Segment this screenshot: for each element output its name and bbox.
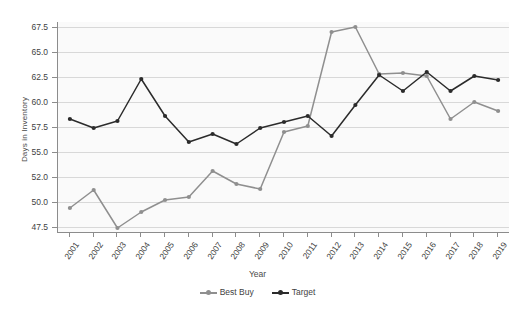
data-point [282,130,286,134]
x-axis-tick [140,232,141,237]
x-axis-tick [212,232,213,237]
y-axis-tick [52,77,57,78]
y-axis-tick [52,202,57,203]
x-axis-tick [235,232,236,237]
y-axis-tick [52,127,57,128]
data-point [401,89,405,93]
x-axis-tick-label: 2014 [365,240,390,270]
data-point [187,195,191,199]
y-axis-tick [52,177,57,178]
data-point [234,142,238,146]
chart-legend: Best BuyTarget [0,288,515,297]
y-axis-tick-label: 65.0 [8,47,48,57]
y-axis-tick-label: 60.0 [8,97,48,107]
data-point [211,132,215,136]
data-point [92,126,96,130]
x-axis-title: Year [0,269,515,279]
x-axis-tick [188,232,189,237]
x-axis-tick-label: 2015 [389,240,414,270]
data-point [329,134,333,138]
y-axis-tick-label: 55.0 [8,147,48,157]
x-axis-tick-label: 2005 [151,240,176,270]
data-point [448,89,452,93]
data-point [401,71,405,75]
data-point [425,70,429,74]
legend-item-target[interactable]: Target [272,288,316,297]
data-point [163,114,167,118]
x-axis-tick-label: 2011 [294,240,319,270]
x-axis-tick-label: 2017 [436,240,461,270]
x-axis-tick [402,232,403,237]
y-axis-tick [52,152,57,153]
x-axis-tick [473,232,474,237]
data-point [115,226,119,230]
y-axis-tick-label: 67.5 [8,22,48,32]
data-point [68,117,72,121]
data-point [472,74,476,78]
series-line-best-buy [70,27,498,228]
data-point [377,73,381,77]
y-axis-tick [52,227,57,228]
legend-label: Target [292,288,316,297]
y-axis-tick-label: 47.5 [8,222,48,232]
x-axis-tick [354,232,355,237]
x-axis-tick [497,232,498,237]
y-axis-tick-label: 52.0 [8,172,48,182]
data-point [329,30,333,34]
x-axis-tick-label: 2007 [198,240,223,270]
x-axis-tick-label: 2001 [56,240,81,270]
data-point [258,187,262,191]
data-point [163,198,167,202]
plot-area [57,22,509,232]
x-axis-tick [164,232,165,237]
y-axis-tick-label: 62.5 [8,72,48,82]
x-axis-tick-label: 2010 [270,240,295,270]
data-point [139,77,143,81]
x-axis-tick-label: 2013 [341,240,366,270]
data-point [92,188,96,192]
x-axis-tick-label: 2003 [103,240,128,270]
x-axis-tick [283,232,284,237]
data-point [68,206,72,210]
legend-marker-icon [272,288,289,297]
x-axis-tick-label: 2006 [175,240,200,270]
x-axis-tick-label: 2019 [484,240,509,270]
y-axis-tick [52,102,57,103]
legend-marker-icon [200,288,217,297]
x-axis-tick [116,232,117,237]
x-axis-tick-label: 2018 [460,240,485,270]
data-point [425,74,429,78]
series-layer [58,22,510,232]
legend-label: Best Buy [220,288,254,297]
x-axis-tick [331,232,332,237]
data-point [353,25,357,29]
x-axis-tick [450,232,451,237]
x-axis-tick-label: 2012 [317,240,342,270]
data-point [306,124,310,128]
data-point [187,140,191,144]
x-axis-tick [426,232,427,237]
legend-item-best-buy[interactable]: Best Buy [200,288,254,297]
y-axis-tick [52,52,57,53]
data-point [496,78,500,82]
x-axis-tick [259,232,260,237]
x-axis-tick-label: 2002 [79,240,104,270]
line-chart: Days in Inventory 47.550.052.055.057.560… [0,0,515,309]
x-axis-tick-label: 2008 [222,240,247,270]
x-axis-tick [307,232,308,237]
data-point [115,119,119,123]
y-axis-tick [52,27,57,28]
data-point [472,100,476,104]
data-point [211,169,215,173]
data-point [496,109,500,113]
data-point [448,117,452,121]
data-point [282,120,286,124]
y-axis-tick-label: 57.5 [8,122,48,132]
data-point [353,103,357,107]
x-axis-tick [69,232,70,237]
x-axis-tick-label: 2004 [127,240,152,270]
data-point [258,126,262,130]
x-axis-tick-label: 2009 [246,240,271,270]
x-axis-tick-label: 2016 [413,240,438,270]
x-axis-tick [378,232,379,237]
